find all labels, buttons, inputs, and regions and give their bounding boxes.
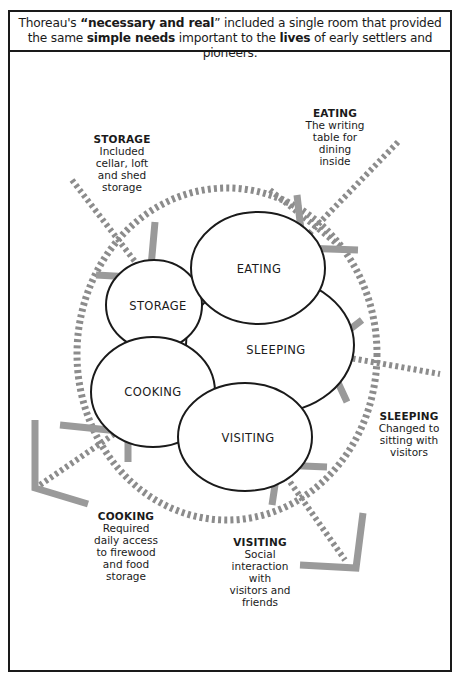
visiting-note-title: VISITING: [220, 536, 300, 548]
visiting-note-line: interaction: [220, 560, 300, 572]
cooking-note-line: storage: [84, 570, 168, 582]
sleeping-oval-label: SLEEPING: [246, 343, 305, 357]
storage-note: STORAGE Included cellar, loft and shed s…: [82, 133, 162, 193]
cooking-note-line: daily access: [84, 534, 168, 546]
eating-note: EATING The writing table for dining insi…: [300, 107, 370, 167]
visiting-outer-arrow-icon: [300, 513, 363, 568]
sleeping-note-line: Changed to: [372, 422, 446, 434]
storage-note-title: STORAGE: [82, 133, 162, 145]
cooking-arrow-icon: [35, 420, 88, 504]
visiting-oval-label: VISITING: [221, 431, 274, 445]
visiting-note-line: with: [220, 572, 300, 584]
eating-note-title: EATING: [300, 107, 370, 119]
sleeping-note: SLEEPING Changed to sitting with visitor…: [372, 410, 446, 458]
eating-note-line: dining: [300, 143, 370, 155]
sleeping-note-line: visitors: [372, 446, 446, 458]
eating-note-line: inside: [300, 155, 370, 167]
storage-note-line: cellar, loft: [82, 157, 162, 169]
eating-oval-label: EATING: [237, 262, 282, 276]
visiting-note-line: visitors and: [220, 584, 300, 596]
storage-oval-label: STORAGE: [129, 299, 187, 313]
visiting-note-line: Social: [220, 548, 300, 560]
storage-note-line: storage: [82, 181, 162, 193]
sleeping-note-line: sitting with: [372, 434, 446, 446]
cooking-oval-label: COOKING: [124, 385, 181, 399]
visiting-note-line: friends: [220, 596, 300, 608]
eating-note-line: The writing: [300, 119, 370, 131]
storage-note-line: and shed: [82, 169, 162, 181]
visiting-note: VISITING Social interaction with visitor…: [220, 536, 300, 608]
cooking-note: COOKING Required daily access to firewoo…: [84, 510, 168, 582]
cooking-note-title: COOKING: [84, 510, 168, 522]
cooking-note-line: Required: [84, 522, 168, 534]
storage-note-line: Included: [82, 145, 162, 157]
cooking-note-line: and food: [84, 558, 168, 570]
eating-note-line: table for: [300, 131, 370, 143]
cooking-note-line: to firewood: [84, 546, 168, 558]
sleeping-note-title: SLEEPING: [372, 410, 446, 422]
